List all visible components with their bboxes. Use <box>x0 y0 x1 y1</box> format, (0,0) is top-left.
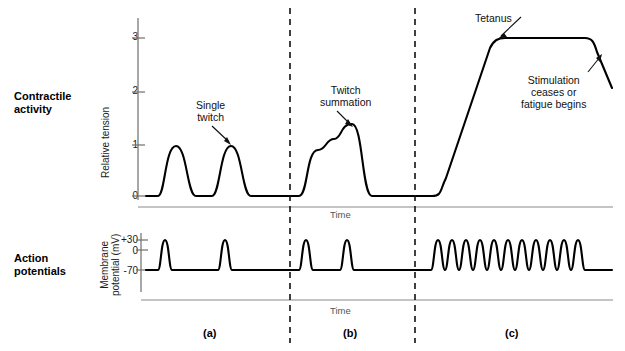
leader-single-twitch <box>212 126 231 145</box>
figure-canvas: Contractile activity Action potentials R… <box>0 0 625 351</box>
tension-y-axis <box>132 18 145 200</box>
leader-twitch-summation <box>337 111 353 127</box>
action-potentials-trace <box>146 240 612 270</box>
leader-tetanus <box>498 17 521 39</box>
mv-y-axis <box>136 233 148 292</box>
leader-stimulation-ceases <box>588 54 602 72</box>
contractile-activity-curve <box>146 38 612 196</box>
figure-svg <box>0 0 625 351</box>
